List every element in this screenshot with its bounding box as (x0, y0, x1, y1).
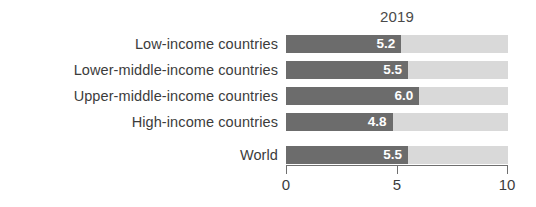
x-axis-tick (397, 165, 398, 174)
bar-row-label: High-income countries (132, 112, 278, 132)
bar-fill: 6.0 (286, 87, 419, 105)
bar-row-world: World 5.5 (0, 145, 536, 165)
x-axis-tick-label: 0 (282, 176, 290, 193)
bar-value-label: 5.2 (377, 35, 396, 53)
bar-fill: 4.8 (286, 113, 393, 131)
bar-value-label: 6.0 (394, 87, 413, 105)
bar-row-upper-middle-income: Upper-middle-income countries 6.0 (0, 86, 536, 106)
bar-track: 4.8 (286, 113, 508, 131)
x-axis-tick (286, 165, 287, 174)
x-axis-tick-label: 10 (499, 176, 516, 193)
bar-track: 6.0 (286, 87, 508, 105)
bar-fill: 5.2 (286, 35, 401, 53)
bar-row-label: Low-income countries (135, 34, 278, 54)
x-axis-tick-labels: 0 5 10 (286, 176, 508, 198)
bar-fill: 5.5 (286, 61, 408, 79)
bar-row-label: World (240, 145, 278, 165)
bar-value-label: 5.5 (383, 61, 402, 79)
bar-chart: 2019 Low-income countries 5.2 Lower-midd… (0, 0, 536, 207)
bar-track: 5.2 (286, 35, 508, 53)
bar-row-high-income: High-income countries 4.8 (0, 112, 536, 132)
bar-row-label: Lower-middle-income countries (74, 60, 278, 80)
bar-value-label: 5.5 (383, 146, 402, 164)
chart-title: 2019 (286, 8, 508, 25)
bar-value-label: 4.8 (368, 113, 387, 131)
bar-row-label: Upper-middle-income countries (74, 86, 278, 106)
bar-track: 5.5 (286, 146, 508, 164)
bar-row-low-income: Low-income countries 5.2 (0, 34, 536, 54)
bar-track: 5.5 (286, 61, 508, 79)
bar-row-lower-middle-income: Lower-middle-income countries 5.5 (0, 60, 536, 80)
x-axis-tick-label: 5 (393, 176, 401, 193)
bar-fill: 5.5 (286, 146, 408, 164)
x-axis (286, 165, 508, 174)
x-axis-tick (507, 165, 508, 174)
plot-area: Low-income countries 5.2 Lower-middle-in… (0, 34, 536, 164)
